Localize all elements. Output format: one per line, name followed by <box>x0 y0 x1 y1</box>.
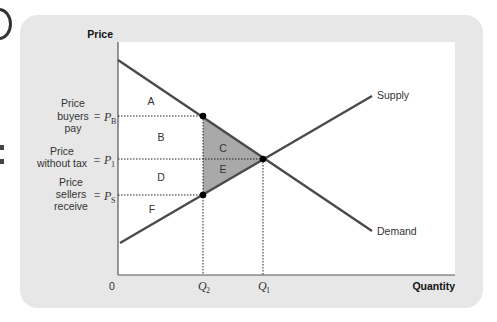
p1-subscript: 1 <box>111 160 115 169</box>
svg-text:Price: Price <box>59 176 83 188</box>
region-a-label: A <box>147 95 154 107</box>
ps-subscript: S <box>111 196 115 205</box>
svg-text:2: 2 <box>206 286 210 295</box>
q1-label: Q 1 <box>258 279 270 295</box>
buyers-price-point <box>200 113 207 120</box>
pb-subscript: B <box>111 117 116 126</box>
plot-area <box>118 42 455 275</box>
region-c-label: C <box>219 142 227 154</box>
svg-text:pay: pay <box>65 122 83 134</box>
svg-text:1: 1 <box>266 286 270 295</box>
sellers-price-point <box>200 192 207 199</box>
region-f-label: F <box>149 203 155 215</box>
svg-text:buyers: buyers <box>57 110 89 122</box>
q2-label: Q 2 <box>198 279 210 295</box>
tax-diagram: Price Quantity 0 Supply Demand A B C D E… <box>0 0 497 322</box>
p1-caption: Price without tax = P 1 <box>36 145 115 169</box>
quantity-axis-label: Quantity <box>412 280 455 292</box>
svg-text:=: = <box>94 189 100 201</box>
svg-text:without tax: without tax <box>36 157 88 169</box>
svg-text:Price: Price <box>50 145 74 157</box>
equilibrium-point <box>260 156 267 163</box>
svg-text:=: = <box>94 154 100 166</box>
svg-text:receive: receive <box>54 200 88 212</box>
region-d-label: D <box>157 171 165 183</box>
svg-text:sellers: sellers <box>56 188 86 200</box>
price-axis-label: Price <box>87 28 113 40</box>
svg-text:Price: Price <box>61 97 85 109</box>
origin-label: 0 <box>109 280 115 292</box>
region-e-label: E <box>219 163 226 175</box>
svg-text:=: = <box>94 110 100 122</box>
ps-caption: Price sellers receive = P S <box>54 176 115 212</box>
region-b-label: B <box>157 131 164 143</box>
demand-label: Demand <box>377 225 417 237</box>
supply-label: Supply <box>377 89 410 101</box>
pb-caption: Price buyers pay = P B <box>57 97 116 134</box>
